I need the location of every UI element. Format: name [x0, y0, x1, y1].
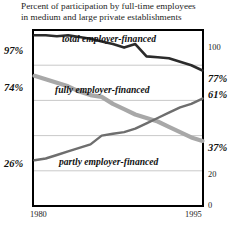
right-axis-label-100: 100: [208, 43, 221, 52]
x-axis-label-1980: 1980: [30, 210, 47, 219]
right-axis-label-20: 20: [208, 170, 216, 179]
right-axis-label-37: 37%: [208, 142, 227, 153]
series-label-fully: fully employer-financed: [55, 84, 150, 95]
left-axis-label-26: 26%: [4, 158, 23, 169]
series-label-partly: partly employer-financed: [59, 156, 158, 167]
x-axis-label-1995: 1995: [185, 210, 202, 219]
series-label-total: total employer-financed: [62, 33, 156, 44]
right-axis-label-77: 77%: [208, 73, 227, 84]
chart-figure: Percent of participation by full-time em…: [0, 0, 235, 234]
left-axis-label-74: 74%: [4, 82, 23, 93]
left-axis-label-97: 97%: [4, 45, 23, 56]
plot-background: [33, 30, 203, 206]
right-axis-label-0: 0: [208, 201, 212, 210]
right-axis-label-61: 61%: [208, 89, 227, 100]
